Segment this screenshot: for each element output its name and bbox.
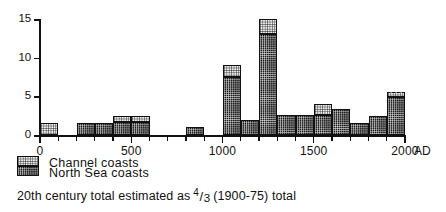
legend-label-north-sea-coasts: North Sea coasts <box>49 167 149 180</box>
bar-300-400 <box>95 123 113 135</box>
x-tick-0 <box>39 136 40 143</box>
legend-swatch-channel-coasts <box>17 156 39 166</box>
x-tick-label-1000: 1000 <box>209 145 237 157</box>
y-tick-label-0: 0 <box>25 129 31 141</box>
bar-segment-north-sea <box>77 123 95 135</box>
bar-1900-2000 <box>387 92 405 135</box>
bar-1800-1900 <box>369 116 387 135</box>
bar-segment-north-sea <box>332 109 350 135</box>
x-tick-1400 <box>295 136 296 141</box>
bar-200-300 <box>77 123 95 135</box>
y-tick-15 <box>34 19 40 21</box>
fraction-numerator: 4 <box>193 188 199 198</box>
bar-1200-1300 <box>259 19 277 135</box>
y-tick-10 <box>34 58 40 60</box>
legend-swatch-north-sea-coasts <box>17 166 39 176</box>
bar-segment-north-sea <box>95 123 113 135</box>
bar-segment-channel <box>387 92 405 97</box>
bar-segment-north-sea <box>314 115 332 135</box>
bar-segment-channel <box>314 104 332 115</box>
bar-400-500 <box>113 116 131 135</box>
x-tick-200 <box>76 136 77 141</box>
chart-root: 051015 0500100015002000 AD Channel coast… <box>0 0 446 212</box>
bar-segment-channel <box>259 19 277 34</box>
x-tick-600 <box>149 136 150 141</box>
bar-segment-north-sea <box>131 122 149 135</box>
plot-area: 051015 0500100015002000 AD <box>40 19 405 135</box>
caption-suffix: (1900-75) total <box>213 190 296 203</box>
y-tick-label-10: 10 <box>19 52 31 64</box>
y-tick-label-5: 5 <box>25 91 31 103</box>
x-tick-500 <box>131 136 132 143</box>
x-tick-900 <box>204 136 205 141</box>
x-tick-700 <box>167 136 168 141</box>
bar-segment-north-sea <box>277 115 295 135</box>
fraction-denominator: 3 <box>204 193 211 205</box>
x-tick-1300 <box>277 136 278 141</box>
x-tick-1600 <box>331 136 332 141</box>
y-tick-5 <box>34 96 40 98</box>
bar-segment-north-sea <box>369 116 387 135</box>
x-tick-1200 <box>258 136 259 141</box>
caption-fraction: 4 / 3 <box>193 190 210 203</box>
x-tick-1000 <box>222 136 223 143</box>
bar-segment-north-sea <box>296 115 314 135</box>
x-tick-label-1500: 1500 <box>300 145 328 157</box>
bar-1600-1700 <box>332 109 350 135</box>
bar-1700-1800 <box>350 123 368 135</box>
bar-segment-channel <box>131 116 149 122</box>
bar-1300-1400 <box>277 115 295 135</box>
bar-segment-north-sea <box>113 122 131 135</box>
bar-500-600 <box>131 116 149 135</box>
bar-segment-channel <box>113 116 131 122</box>
x-tick-1500 <box>313 136 314 143</box>
x-tick-800 <box>185 136 186 141</box>
bar-800-900 <box>186 127 204 136</box>
y-axis-line <box>39 19 41 135</box>
bar-segment-channel <box>40 123 58 135</box>
bar-1100-1200 <box>241 120 259 135</box>
bar-0-100 <box>40 123 58 135</box>
bar-segment-north-sea <box>387 97 405 135</box>
x-tick-1900 <box>386 136 387 141</box>
x-axis-suffix-label: AD <box>414 145 431 157</box>
bar-1000-1100 <box>223 65 241 135</box>
bar-segment-north-sea <box>241 120 259 135</box>
chart-caption: 20th century total estimated as 4 / 3 (1… <box>17 190 296 203</box>
x-tick-300 <box>94 136 95 141</box>
x-tick-400 <box>112 136 113 141</box>
bar-1500-1600 <box>314 104 332 135</box>
x-tick-1700 <box>350 136 351 141</box>
bar-segment-north-sea <box>350 123 368 135</box>
x-tick-2000 <box>404 136 405 143</box>
x-tick-1800 <box>368 136 369 141</box>
y-tick-label-15: 15 <box>19 13 31 25</box>
bar-segment-north-sea <box>259 34 277 135</box>
bar-1400-1500 <box>296 115 314 135</box>
x-tick-100 <box>58 136 59 141</box>
caption-prefix: 20th century total estimated as <box>17 190 190 203</box>
bar-segment-channel <box>223 65 241 77</box>
bar-segment-north-sea <box>186 127 204 136</box>
x-tick-1100 <box>240 136 241 141</box>
bar-segment-north-sea <box>223 77 241 135</box>
